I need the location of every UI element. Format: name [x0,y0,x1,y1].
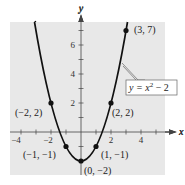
point-label: (1, −1) [101,149,128,161]
point-2-2 [108,100,113,105]
point-3-7 [123,28,128,33]
y-axis-arrow-icon [78,14,83,22]
point-m1-m1 [63,144,68,149]
equation-label: y = x2 − 2 [128,81,169,93]
x-axis-arrow-icon [169,129,177,134]
point-1-m1 [93,144,98,149]
point-0-m2 [78,158,83,163]
x-tick-label: −2 [43,135,53,145]
x-tick-label: 2 [109,135,114,145]
point-label: (0, −2) [84,165,111,177]
point-label: (−1, −1) [23,149,56,161]
chart-main: −4 −2 2 4 x 2 4 6 y (−2, 2) (−1, −1) (0,… [0,0,185,185]
point-m2-2 [48,100,53,105]
y-axis-label: y [78,2,84,13]
y-tick-label: 4 [71,69,76,79]
y-tick-label: 6 [71,40,76,50]
y-tick-label: 2 [71,98,76,108]
x-tick-label: −4 [11,135,21,145]
point-label: (−2, 2) [15,107,42,119]
x-tick-label: 4 [139,135,144,145]
point-label: (2, 2) [112,107,134,119]
point-label: (3, 7) [134,24,156,36]
x-axis-label: x [178,126,184,137]
